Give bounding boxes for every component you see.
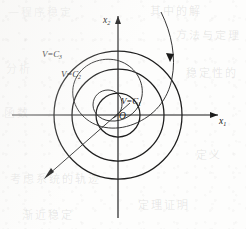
x1-axis-label: x1: [219, 117, 226, 127]
x2-axis-arrowhead: [115, 16, 121, 24]
x2-axis-label: x2: [103, 16, 110, 26]
trajectory-direction-arrowhead: [166, 53, 174, 62]
x1-axis-arrowhead: [210, 112, 218, 118]
figure-container: 一程序稳定 其中的解 方法与定理 分析 稳定性的 函数 定义 考虑系统的轨迹 定…: [0, 0, 246, 229]
level-curve-c3-label: V=C3: [42, 50, 62, 59]
level-curve-c2-label: V=C2: [61, 70, 81, 79]
gradient-arrow-arrowhead: [44, 168, 54, 179]
level-curve-c1-label: V=C1: [121, 97, 141, 106]
origin-label: O: [119, 112, 126, 122]
